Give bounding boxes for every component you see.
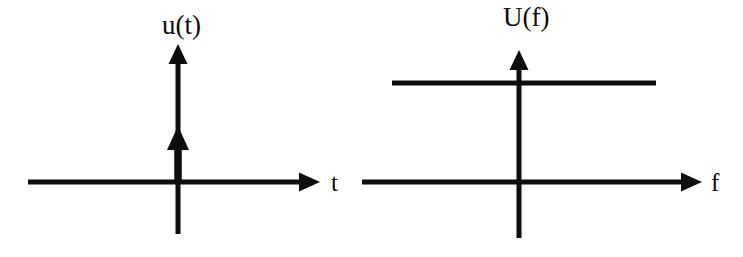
figure-canvas: u(t) t U(f) f — [0, 0, 743, 257]
diagram-svg — [0, 0, 743, 257]
time-domain-signal-label: u(t) — [162, 12, 201, 39]
frequency-vertical-axis-arrowhead — [510, 50, 529, 70]
unit-impulse-arrow — [167, 126, 189, 183]
unit-impulse-arrowhead — [167, 126, 189, 150]
frequency-domain-plot — [362, 50, 702, 238]
frequency-horizontal-axis-arrowhead — [681, 173, 702, 192]
time-horizontal-axis-arrowhead — [299, 173, 320, 192]
frequency-axis-variable-label: f — [711, 170, 719, 195]
time-domain-plot — [28, 44, 320, 234]
frequency-domain-signal-label: U(f) — [503, 4, 549, 31]
time-vertical-axis-arrowhead — [169, 44, 188, 64]
time-axis-variable-label: t — [331, 170, 338, 195]
